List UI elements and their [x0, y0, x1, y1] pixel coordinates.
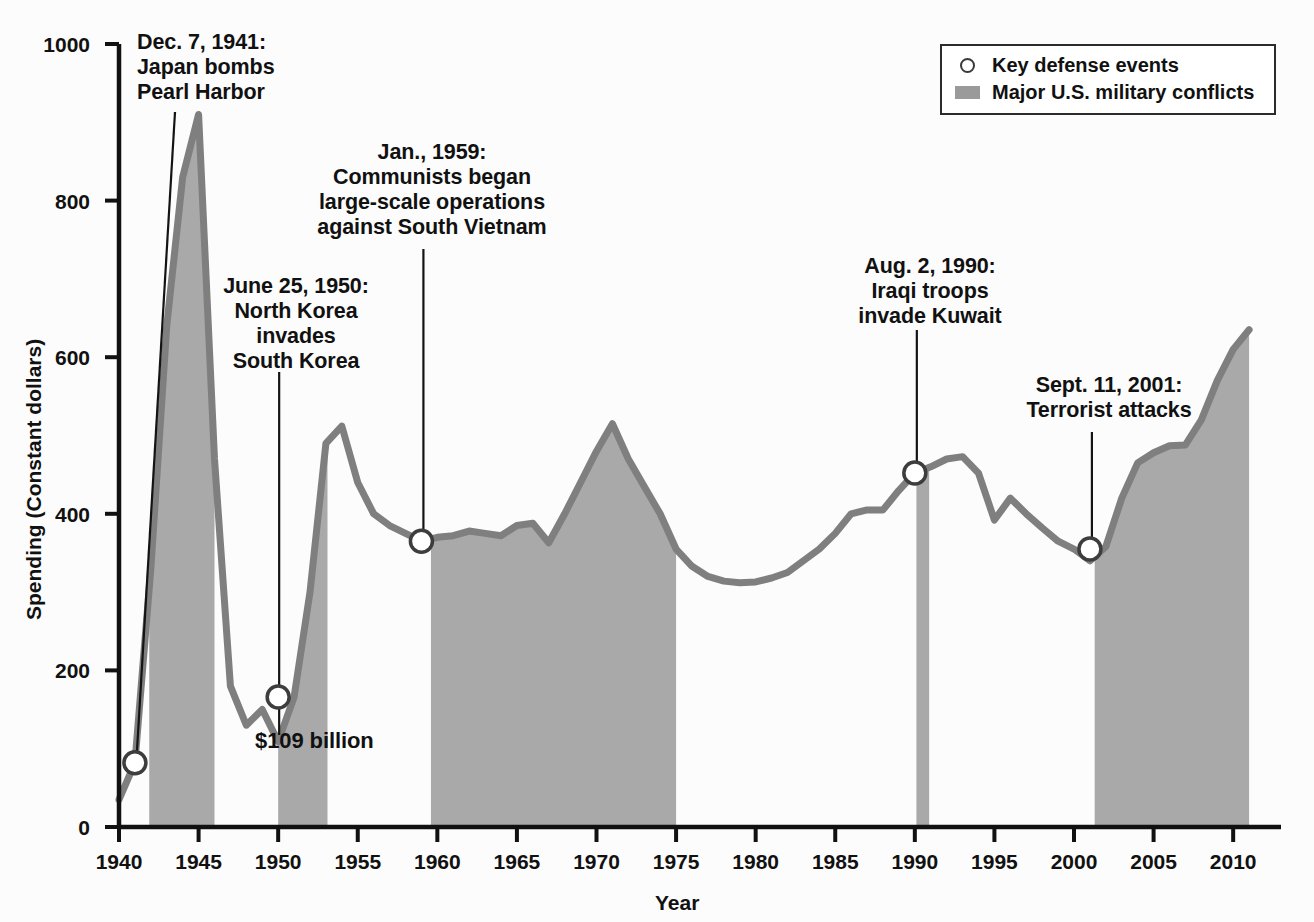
annotation-kuwait-line3: invade Kuwait — [836, 304, 1024, 329]
legend-item-key-defense-events: Key defense events — [954, 52, 1264, 79]
x-tick-1960: 1960 — [402, 850, 472, 874]
annotation-sept11-line2: Terrorist attacks — [1011, 398, 1207, 423]
annotation-pearl-harbor: Dec. 7, 1941: Japan bombs Pearl Harbor — [137, 30, 275, 105]
event-marker — [124, 752, 146, 774]
filled-rect-icon — [954, 86, 980, 99]
x-tick-1965: 1965 — [482, 850, 552, 874]
y-tick-800: 800 — [28, 190, 90, 214]
legend-label-major-conflicts: Major U.S. military conflicts — [992, 81, 1254, 104]
annotation-vietnam-line4: against South Vietnam — [296, 215, 568, 240]
annotation-vietnam-line3: large-scale operations — [296, 190, 568, 215]
event-marker — [267, 686, 289, 708]
annotation-korea-line1: June 25, 1950: — [216, 274, 376, 299]
annotation-korea-line3: invades — [216, 324, 376, 349]
annotation-pearl-harbor-line1: Dec. 7, 1941: — [137, 30, 275, 55]
x-tick-1990: 1990 — [880, 850, 950, 874]
y-axis-title: Spending (Constant dollars) — [22, 339, 46, 620]
chart-legend: Key defense events Major U.S. military c… — [940, 44, 1276, 115]
x-tick-1970: 1970 — [562, 850, 632, 874]
annotation-vietnam: Jan., 1959: Communists began large-scale… — [296, 140, 568, 241]
x-tick-2005: 2005 — [1119, 850, 1189, 874]
y-tick-1000: 1000 — [28, 33, 90, 57]
x-tick-1995: 1995 — [959, 850, 1029, 874]
annotation-value-callout: $109 billion — [255, 728, 374, 754]
event-marker — [904, 462, 926, 484]
y-tick-0: 0 — [28, 816, 90, 840]
annotation-pearl-harbor-line3: Pearl Harbor — [137, 80, 275, 105]
x-tick-2010: 2010 — [1198, 850, 1268, 874]
annotation-kuwait-line2: Iraqi troops — [836, 279, 1024, 304]
x-tick-1975: 1975 — [641, 850, 711, 874]
y-tick-200: 200 — [28, 659, 90, 683]
event-marker — [1079, 538, 1101, 560]
legend-item-major-conflicts: Major U.S. military conflicts — [954, 79, 1264, 106]
conflict-band — [1095, 34, 1253, 829]
annotation-pearl-harbor-line2: Japan bombs — [137, 55, 275, 80]
annotation-vietnam-line1: Jan., 1959: — [296, 140, 568, 165]
event-marker — [410, 530, 432, 552]
x-tick-1985: 1985 — [800, 850, 870, 874]
annotation-vietnam-line2: Communists began — [296, 165, 568, 190]
annotation-korea: June 25, 1950: North Korea invades South… — [216, 274, 376, 375]
x-tick-1940: 1940 — [84, 850, 154, 874]
x-tick-1950: 1950 — [243, 850, 313, 874]
annotation-kuwait: Aug. 2, 1990: Iraqi troops invade Kuwait — [836, 254, 1024, 329]
defense-spending-chart — [0, 0, 1314, 922]
chart-page: 1000 800 600 400 200 0 Spending (Constan… — [0, 0, 1314, 922]
annotation-kuwait-line1: Aug. 2, 1990: — [836, 254, 1024, 279]
annotation-korea-line4: South Korea — [216, 349, 376, 374]
conflict-band — [916, 34, 929, 829]
open-circle-icon — [954, 58, 980, 73]
annotation-sept11: Sept. 11, 2001: Terrorist attacks — [1011, 373, 1207, 423]
legend-label-key-defense-events: Key defense events — [992, 54, 1179, 77]
x-tick-2000: 2000 — [1039, 850, 1109, 874]
x-axis-title: Year — [655, 891, 699, 915]
annotation-sept11-line1: Sept. 11, 2001: — [1011, 373, 1207, 398]
x-tick-1955: 1955 — [323, 850, 393, 874]
x-tick-1945: 1945 — [164, 850, 234, 874]
annotation-korea-line2: North Korea — [216, 299, 376, 324]
x-tick-1980: 1980 — [721, 850, 791, 874]
